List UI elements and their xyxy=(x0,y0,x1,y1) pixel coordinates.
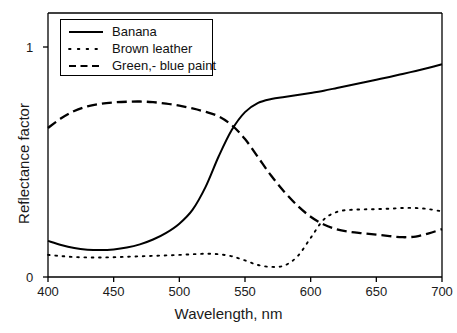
legend-item-green-blue-paint: Green,- blue paint xyxy=(61,57,212,74)
x-tick-label-500: 500 xyxy=(168,284,190,299)
y-axis-title: Reflectance factor xyxy=(15,64,32,264)
legend-item-brown-leather: Brown leather xyxy=(61,40,212,57)
series-line-banana xyxy=(48,64,442,250)
x-tick-label-400: 400 xyxy=(37,284,59,299)
legend-line-sample-solid xyxy=(67,26,105,38)
series-line-brown-leather xyxy=(48,208,442,267)
y-tick-label-0: 0 xyxy=(26,270,33,285)
reflectance-chart-figure: 40045050055060065070001 Reflectance fact… xyxy=(0,0,457,333)
x-tick-label-600: 600 xyxy=(300,284,322,299)
legend-label-brown-leather: Brown leather xyxy=(112,41,192,56)
axis-ticks xyxy=(43,47,442,282)
series-line-green-blue-paint xyxy=(48,101,442,237)
x-tick-label-450: 450 xyxy=(103,284,125,299)
legend-line-sample-dotted xyxy=(67,43,105,55)
x-tick-label-650: 650 xyxy=(365,284,387,299)
x-axis-title: Wavelength, nm xyxy=(0,305,457,322)
x-tick-label-700: 700 xyxy=(431,284,453,299)
y-tick-label-1: 1 xyxy=(26,40,33,55)
legend-item-banana: Banana xyxy=(61,23,212,40)
legend-label-banana: Banana xyxy=(112,24,157,39)
legend-line-sample-dashed xyxy=(67,60,105,72)
x-tick-label-550: 550 xyxy=(234,284,256,299)
data-series-group xyxy=(48,64,442,267)
legend-label-green-blue-paint: Green,- blue paint xyxy=(112,58,216,73)
chart-legend: Banana Brown leather Green,- blue paint xyxy=(60,19,213,76)
